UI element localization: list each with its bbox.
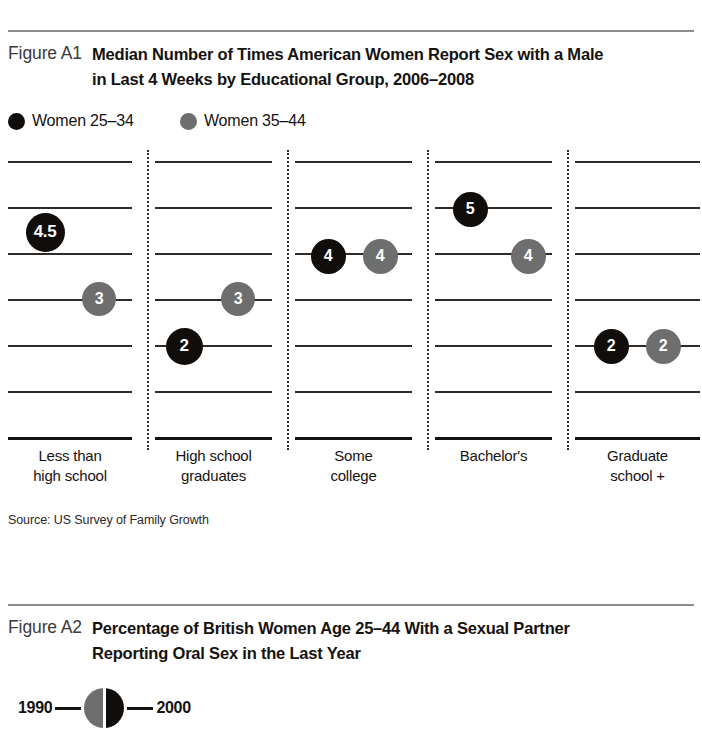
gridline xyxy=(295,391,412,393)
gridline xyxy=(8,161,132,163)
gridline xyxy=(575,299,700,301)
marker-bachelors-25-34: 5 xyxy=(453,192,488,227)
legend-label-women-35-44: Women 35–44 xyxy=(204,112,306,130)
axis-segment xyxy=(295,437,412,440)
gridline xyxy=(435,345,552,347)
marker-less-than-high-school-25-34: 4.5 xyxy=(26,213,65,252)
legend-connector-right xyxy=(127,707,153,710)
x-axis-label-line-2: graduates xyxy=(155,466,272,486)
legend-item-women-25-34: Women 25–34 xyxy=(8,112,134,130)
split-circle-icon xyxy=(84,688,124,728)
gridline xyxy=(575,253,700,255)
x-axis-label-line-1: High school xyxy=(155,446,272,466)
section-divider-rule xyxy=(8,604,694,606)
figure-a2-title-line-1: Percentage of British Women Age 25–44 Wi… xyxy=(92,616,570,641)
split-circle-gap xyxy=(103,688,106,728)
figure-a1-plot: 4.5323445422 xyxy=(0,150,702,450)
gridline xyxy=(575,161,700,163)
gridline xyxy=(8,253,132,255)
marker-some-college-35-44: 4 xyxy=(363,239,398,274)
gridline xyxy=(435,391,552,393)
legend-year-1990: 1990 xyxy=(18,699,52,717)
figure-a2-legend: 1990 2000 xyxy=(18,688,191,728)
legend-item-women-35-44: Women 35–44 xyxy=(180,112,306,130)
marker-some-college-25-34: 4 xyxy=(311,239,346,274)
legend-year-2000: 2000 xyxy=(156,699,190,717)
gridline xyxy=(295,207,412,209)
marker-high-school-graduates-35-44: 3 xyxy=(221,282,255,316)
legend-connector-left xyxy=(55,707,81,710)
x-axis-label-line-1: Graduate xyxy=(575,446,700,466)
x-axis-label-line-2: school + xyxy=(575,466,700,486)
figure-a1-source: Source: US Survey of Family Growth xyxy=(8,513,209,527)
x-axis-label: Less thanhigh school xyxy=(8,446,132,486)
gridline xyxy=(155,161,272,163)
x-axis-label: High schoolgraduates xyxy=(155,446,272,486)
marker-graduate-school-25-34: 2 xyxy=(594,329,629,364)
gridline xyxy=(155,207,272,209)
axis-segment xyxy=(155,437,272,440)
gridline xyxy=(155,391,272,393)
marker-bachelors-35-44: 4 xyxy=(511,239,546,274)
column-divider xyxy=(287,150,291,450)
figure-a2-title: Percentage of British Women Age 25–44 Wi… xyxy=(92,616,570,666)
figure-a2-label: Figure A2 xyxy=(8,616,82,638)
x-axis-label-line-1: Bachelor's xyxy=(435,446,552,466)
top-divider-rule xyxy=(8,30,694,32)
figure-a2-title-line-2: Reporting Oral Sex in the Last Year xyxy=(92,641,570,666)
split-circle-left-half xyxy=(84,688,104,728)
gridline xyxy=(295,345,412,347)
figure-a1-title: Median Number of Times American Women Re… xyxy=(92,42,603,92)
gridline xyxy=(8,207,132,209)
axis-segment xyxy=(435,437,552,440)
figure-a1-title-line-1: Median Number of Times American Women Re… xyxy=(92,42,603,67)
figure-a2-heading: Figure A2 Percentage of British Women Ag… xyxy=(8,616,696,666)
gridline xyxy=(8,391,132,393)
legend-label-women-25-34: Women 25–34 xyxy=(32,112,134,130)
gridline xyxy=(295,161,412,163)
column-divider xyxy=(427,150,431,450)
x-axis-label: Graduateschool + xyxy=(575,446,700,486)
filled-circle-icon xyxy=(8,113,25,130)
gridline xyxy=(295,299,412,301)
gridline xyxy=(575,207,700,209)
axis-segment xyxy=(575,437,700,440)
axis-segment xyxy=(8,437,132,440)
gridline xyxy=(8,345,132,347)
column-divider xyxy=(147,150,151,450)
gridline xyxy=(575,391,700,393)
gridline xyxy=(435,299,552,301)
figure-page: Figure A1 Median Number of Times America… xyxy=(0,0,702,749)
marker-less-than-high-school-35-44: 3 xyxy=(82,282,116,316)
gridline xyxy=(155,253,272,255)
x-axis-label: Somecollege xyxy=(295,446,412,486)
marker-graduate-school-35-44: 2 xyxy=(646,329,681,364)
column-divider xyxy=(567,150,571,450)
figure-a1-title-line-2: in Last 4 Weeks by Educational Group, 20… xyxy=(92,67,603,92)
filled-circle-icon xyxy=(180,113,197,130)
x-axis-label-line-1: Some xyxy=(295,446,412,466)
x-axis-label-line-2: high school xyxy=(8,466,132,486)
figure-a1-heading: Figure A1 Median Number of Times America… xyxy=(8,42,696,92)
x-axis-label-line-1: Less than xyxy=(8,446,132,466)
gridline xyxy=(435,161,552,163)
figure-a1-label: Figure A1 xyxy=(8,42,82,64)
marker-high-school-graduates-25-34: 2 xyxy=(166,328,203,365)
x-axis-label: Bachelor's xyxy=(435,446,552,466)
x-axis-label-line-2: college xyxy=(295,466,412,486)
split-circle-right-half xyxy=(104,688,124,728)
